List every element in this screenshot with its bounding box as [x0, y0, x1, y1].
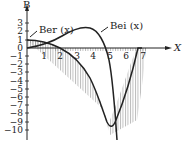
x-tick-labels: 123 456 7 [41, 51, 146, 61]
bei-curve [27, 27, 117, 140]
x-axis-label: X [173, 42, 182, 53]
svg-text:4: 4 [90, 51, 96, 61]
svg-text:−10: −10 [4, 125, 23, 135]
bessel-kelvin-diagram: 321 0−1−2 −3−4−5 −6−7−8 −9−10 123 456 7 … [0, 0, 184, 150]
y-tick-labels: 321 0−1−2 −3−4−5 −6−7−8 −9−10 [4, 18, 23, 135]
svg-text:7: 7 [140, 51, 146, 61]
bei-label-pointer [101, 27, 108, 32]
ber-label: Ber (x) [39, 24, 74, 35]
svg-text:2: 2 [57, 51, 63, 61]
x-axis-arrow-icon [165, 46, 172, 50]
ber-label-pointer [30, 31, 37, 37]
bei-label: Bei (x) [110, 20, 143, 31]
svg-text:6: 6 [123, 51, 129, 61]
y-axis-label: B [23, 0, 30, 10]
svg-text:1: 1 [41, 51, 47, 61]
